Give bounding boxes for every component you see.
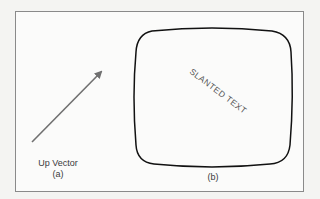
up-vector-arrow-icon [32,72,101,142]
up-vector-text: Up Vector [30,158,86,169]
caption-b: (b) [198,172,228,183]
up-vector-label: Up Vector (a) [30,158,86,180]
screen-outline-icon [134,28,292,167]
caption-a: (a) [30,169,86,180]
